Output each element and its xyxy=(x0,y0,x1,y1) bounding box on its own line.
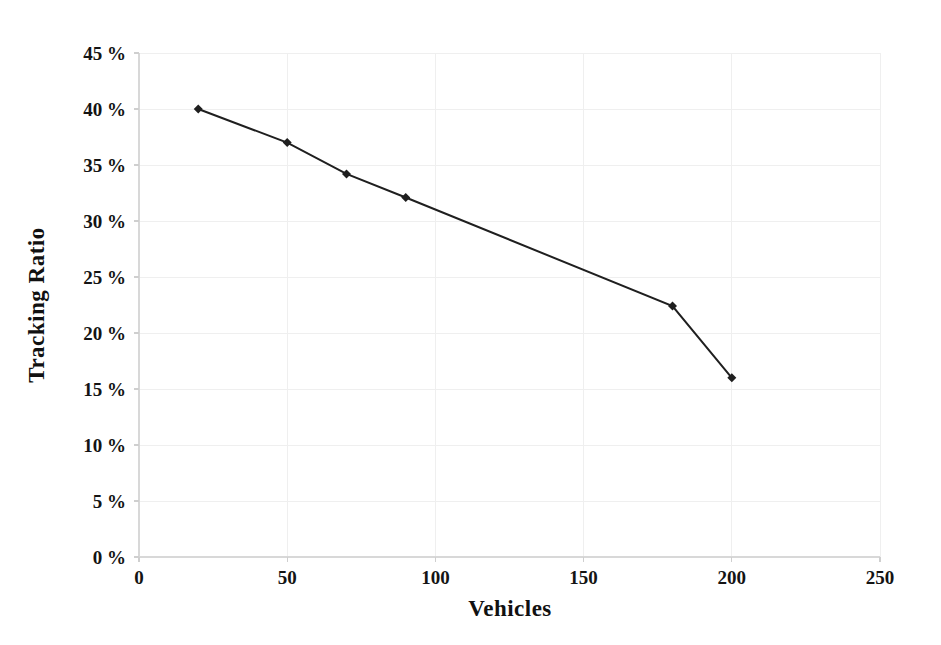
line-chart: 0 %5 %10 %15 %20 %25 %30 %35 %40 %45 % 0… xyxy=(0,0,941,645)
x-axis-title: Vehicles xyxy=(468,596,552,621)
x-axis-tick-label: 150 xyxy=(569,567,598,588)
x-axis-tick-label: 50 xyxy=(278,567,297,588)
y-axis-tick-label: 10 % xyxy=(83,435,126,456)
y-axis-tick-label: 5 % xyxy=(93,491,126,512)
y-axis-title: Tracking Ratio xyxy=(24,227,49,382)
y-axis-tick-label: 45 % xyxy=(83,43,126,64)
chart-background xyxy=(0,0,941,645)
x-axis-tick-label: 200 xyxy=(718,567,747,588)
y-axis-tick-label: 30 % xyxy=(83,211,126,232)
chart-container: 0 %5 %10 %15 %20 %25 %30 %35 %40 %45 % 0… xyxy=(0,0,941,645)
y-axis-tick-label: 20 % xyxy=(83,323,126,344)
x-axis-tick-label: 0 xyxy=(134,567,144,588)
x-axis-tick-label: 250 xyxy=(866,567,895,588)
y-axis-tick-label: 15 % xyxy=(83,379,126,400)
y-axis-tick-label: 35 % xyxy=(83,155,126,176)
x-axis-tick-label: 100 xyxy=(421,567,450,588)
y-axis-tick-label: 0 % xyxy=(93,547,126,568)
y-axis-tick-label: 40 % xyxy=(83,99,126,120)
y-axis-tick-label: 25 % xyxy=(83,267,126,288)
